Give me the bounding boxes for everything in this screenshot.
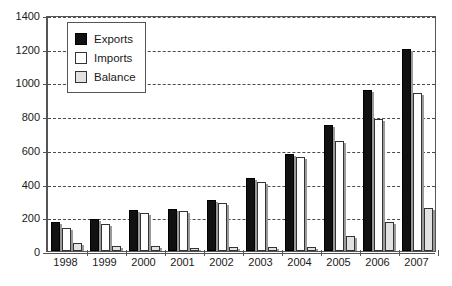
- legend-item-exports: Exports: [75, 29, 136, 48]
- x-tick-label-1998: 1998: [53, 256, 77, 268]
- legend-label-exports: Exports: [94, 33, 133, 45]
- y-tick-label-1200: 1200: [0, 44, 40, 56]
- y-tick-800: [43, 118, 49, 119]
- legend-label-balance: Balance: [94, 71, 136, 83]
- x-axis-labels: 1998199920002001200220032004200520062007: [46, 256, 436, 276]
- legend-swatch-exports-icon: [75, 33, 87, 45]
- bar-imports-2007: [413, 93, 423, 251]
- y-tick-label-600: 600: [0, 145, 40, 157]
- legend-item-imports: Imports: [75, 48, 136, 67]
- y-tick-600: [43, 152, 49, 153]
- x-tick-label-2002: 2002: [209, 256, 233, 268]
- y-tick-label-0: 0: [0, 246, 40, 258]
- x-tick-label-2001: 2001: [170, 256, 194, 268]
- y-tick-1400: [43, 17, 49, 18]
- y-tick-label-200: 200: [0, 212, 40, 224]
- chart-legend: ExportsImportsBalance: [67, 22, 146, 93]
- legend-swatch-imports-icon: [75, 52, 87, 64]
- y-tick-label-800: 800: [0, 111, 40, 123]
- legend-swatch-balance-icon: [75, 71, 87, 83]
- bar-balance-2007: [424, 208, 434, 251]
- bar-shadow-balance-2007: [433, 210, 435, 251]
- gridline-0: [48, 253, 435, 254]
- y-tick-400: [43, 186, 49, 187]
- bar-chart: 0200400600800100012001400 19981999200020…: [0, 0, 452, 286]
- x-tick-label-2006: 2006: [365, 256, 389, 268]
- y-tick-label-1000: 1000: [0, 77, 40, 89]
- bar-exports-2007: [402, 49, 412, 251]
- legend-label-imports: Imports: [94, 52, 132, 64]
- y-tick-label-1400: 1400: [0, 10, 40, 22]
- x-tick-label-2003: 2003: [248, 256, 272, 268]
- x-tick-label-2004: 2004: [287, 256, 311, 268]
- y-tick-label-400: 400: [0, 179, 40, 191]
- x-tick-label-1999: 1999: [92, 256, 116, 268]
- legend-item-balance: Balance: [75, 67, 136, 86]
- y-tick-1200: [43, 51, 49, 52]
- x-tick-2007: [438, 250, 439, 256]
- x-tick-label-2005: 2005: [326, 256, 350, 268]
- x-tick-label-2007: 2007: [404, 256, 428, 268]
- x-tick-label-2000: 2000: [131, 256, 155, 268]
- y-tick-0: [43, 253, 49, 254]
- y-tick-1000: [43, 84, 49, 85]
- y-tick-200: [43, 219, 49, 220]
